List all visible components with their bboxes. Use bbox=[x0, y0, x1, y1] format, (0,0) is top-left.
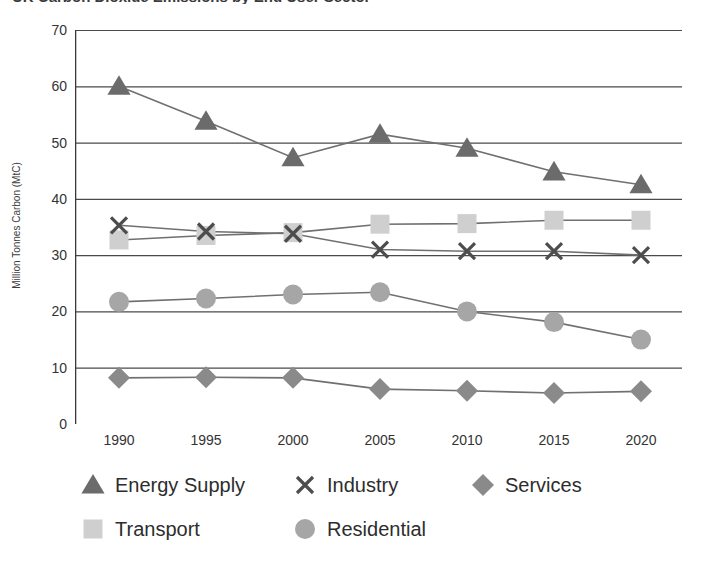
chart-title: UK Carbon Dioxide Emissions by End User … bbox=[12, 0, 672, 4]
diamond-marker bbox=[195, 366, 217, 388]
diamond-marker bbox=[282, 367, 304, 389]
x-tick-label: 1990 bbox=[84, 432, 154, 448]
legend-row-2: TransportResidential bbox=[80, 510, 680, 550]
circle-marker bbox=[109, 292, 129, 312]
cross-marker bbox=[297, 477, 313, 493]
circle-marker bbox=[283, 285, 303, 305]
plot-area bbox=[75, 30, 682, 424]
legend-item-residential[interactable]: Residential bbox=[292, 510, 426, 548]
y-tick-label: 70 bbox=[33, 23, 67, 37]
x-tick-label: 2005 bbox=[345, 432, 415, 448]
diamond-marker bbox=[472, 474, 494, 496]
diamond-marker bbox=[470, 472, 496, 498]
legend-item-transport[interactable]: Transport bbox=[80, 510, 200, 548]
diamond-marker bbox=[456, 380, 478, 402]
square-marker bbox=[80, 516, 106, 542]
triangle-marker bbox=[542, 161, 565, 181]
y-tick-label: 20 bbox=[33, 304, 67, 318]
x-axis-tick-labels: 1990199520002005201020152020 bbox=[75, 432, 682, 454]
legend-label: Transport bbox=[115, 518, 200, 541]
series-markers-services bbox=[108, 366, 652, 404]
triangle-marker bbox=[107, 75, 130, 95]
legend-label: Energy Supply bbox=[115, 474, 245, 497]
y-tick-label: 0 bbox=[33, 417, 67, 431]
circle-marker bbox=[196, 288, 216, 308]
triangle-marker bbox=[80, 472, 106, 498]
triangle-marker bbox=[368, 123, 391, 143]
chart-legend: Energy SupplyIndustryServices TransportR… bbox=[80, 466, 680, 556]
x-tick-label: 1995 bbox=[171, 432, 241, 448]
legend-label: Services bbox=[505, 474, 582, 497]
x-tick-label: 2000 bbox=[258, 432, 328, 448]
legend-label: Residential bbox=[327, 518, 426, 541]
square-marker bbox=[84, 520, 103, 539]
circle-marker bbox=[544, 312, 564, 332]
circle-marker bbox=[631, 330, 651, 350]
plot-svg bbox=[75, 30, 682, 424]
chart-page: UK Carbon Dioxide Emissions by End User … bbox=[0, 0, 702, 572]
y-axis-tick-labels: 010203040506070 bbox=[26, 0, 67, 460]
y-axis-title: Million Tonnes Carbon (MtC) bbox=[11, 136, 22, 316]
legend-item-energy-supply[interactable]: Energy Supply bbox=[80, 466, 245, 504]
legend-item-services[interactable]: Services bbox=[470, 466, 582, 504]
x-tick-label: 2015 bbox=[519, 432, 589, 448]
diamond-marker bbox=[108, 367, 130, 389]
square-marker bbox=[545, 211, 564, 230]
y-tick-label: 30 bbox=[33, 248, 67, 262]
y-tick-label: 40 bbox=[33, 192, 67, 206]
y-tick-label: 10 bbox=[33, 361, 67, 375]
legend-item-industry[interactable]: Industry bbox=[292, 466, 398, 504]
circle-marker bbox=[292, 516, 318, 542]
legend-row-1: Energy SupplyIndustryServices bbox=[80, 466, 680, 506]
diamond-marker bbox=[630, 380, 652, 402]
series-markers-energy-supply bbox=[107, 75, 652, 193]
y-tick-label: 60 bbox=[33, 79, 67, 93]
diamond-marker bbox=[369, 378, 391, 400]
x-tick-label: 2010 bbox=[432, 432, 502, 448]
cross-marker bbox=[292, 472, 318, 498]
square-marker bbox=[458, 214, 477, 233]
square-marker bbox=[632, 211, 651, 230]
triangle-marker bbox=[194, 110, 217, 130]
square-marker bbox=[371, 215, 390, 234]
triangle-marker bbox=[281, 147, 304, 167]
circle-marker bbox=[295, 519, 315, 539]
series-markers-residential bbox=[109, 282, 651, 349]
triangle-marker bbox=[81, 474, 104, 494]
legend-label: Industry bbox=[327, 474, 398, 497]
square-marker bbox=[197, 226, 216, 245]
diamond-marker bbox=[543, 382, 565, 404]
circle-marker bbox=[370, 282, 390, 302]
circle-marker bbox=[457, 301, 477, 321]
y-tick-label: 50 bbox=[33, 136, 67, 150]
x-tick-label: 2020 bbox=[606, 432, 676, 448]
